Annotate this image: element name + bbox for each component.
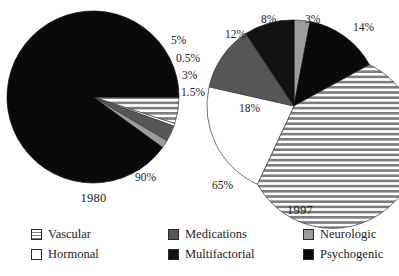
pie-1980-year-label: 1980 (6, 191, 181, 206)
pie-chart-1980: 5% 0.5% 3% 1.5% 90% 1980 (6, 8, 181, 213)
pie-1980-label-psychogenic: 90% (135, 172, 156, 184)
pie-1997-label-multifactorial: 8% (261, 14, 276, 26)
legend-swatch-psychogenic-icon (303, 249, 314, 260)
legend-item-hormonal: Hormonal (31, 244, 99, 264)
pie-1980-slice-psychogenic (7, 11, 179, 183)
pie-1980-label-vascular: 5% (171, 35, 186, 47)
legend-label-multifactorial: Multifactorial (185, 248, 254, 261)
legend-column-1: Vascular Hormonal (31, 224, 99, 264)
legend-item-vascular: Vascular (31, 224, 99, 244)
legend-item-medications: Medications (168, 224, 254, 244)
pie-1980-label-hormonal: 0.5% (176, 53, 200, 65)
legend-label-hormonal: Hormonal (48, 248, 99, 261)
legend-swatch-medications-icon (168, 229, 179, 240)
chart-legend: Vascular Hormonal Medications Multifacto… (0, 224, 399, 268)
legend-column-2: Medications Multifactorial (168, 224, 254, 264)
pie-chart-figure: 5% 0.5% 3% 1.5% 90% 1980 (0, 0, 399, 276)
pie-chart-1997: 8% 3% 14% 12% 18% 65% 1997 (205, 8, 395, 213)
pie-1997-label-hormonal: 18% (239, 103, 260, 115)
legend-label-neurologic: Neurologic (320, 228, 376, 241)
pie-1997-label-vascular: 65% (212, 180, 233, 192)
pie-1997-label-medications: 12% (225, 29, 246, 41)
legend-label-psychogenic: Psychogenic (320, 248, 383, 261)
legend-item-multifactorial: Multifactorial (168, 244, 254, 264)
legend-item-psychogenic: Psychogenic (303, 244, 383, 264)
legend-swatch-hormonal-icon (31, 249, 42, 260)
legend-swatch-neurologic-icon (303, 229, 314, 240)
legend-label-vascular: Vascular (48, 228, 91, 241)
pie-1997-label-psychogenic: 14% (353, 22, 374, 34)
pie-1980-label-neurologic: 1.5% (181, 87, 205, 99)
legend-swatch-multifactorial-icon (168, 249, 179, 260)
pie-1980-label-medications: 3% (182, 70, 197, 82)
legend-column-3: Neurologic Psychogenic (303, 224, 383, 264)
pie-1980-svg (6, 8, 181, 188)
legend-item-neurologic: Neurologic (303, 224, 383, 244)
pie-1997-label-neurologic: 3% (305, 14, 320, 26)
legend-swatch-vascular-icon (31, 229, 42, 240)
pie-1997-year-label: 1997 (205, 203, 395, 218)
legend-label-medications: Medications (185, 228, 247, 241)
